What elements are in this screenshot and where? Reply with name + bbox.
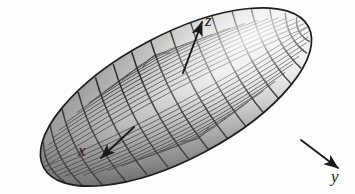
x-axis-label: x <box>78 142 86 159</box>
figure-canvas: z x y <box>0 0 355 194</box>
ellipsoid-body <box>14 0 337 194</box>
ellipsoid-diagram <box>0 0 355 194</box>
z-axis-label: z <box>205 12 212 29</box>
y-axis-label: y <box>331 168 339 185</box>
y-axis-arrow <box>301 140 338 168</box>
